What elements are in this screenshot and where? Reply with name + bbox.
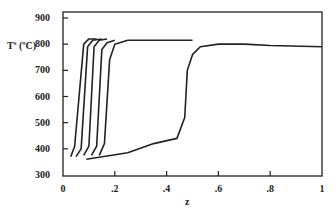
y-axis-label: Ts (ºC) [7,39,36,51]
x-tick-label: .6 [208,183,228,194]
x-tick-label: 1 [312,183,332,194]
series-line [86,44,322,159]
y-tick-label: 700 [20,64,50,75]
series-line [91,40,114,155]
y-tick-label: 900 [20,12,50,23]
y-tick-label: 300 [20,169,50,180]
series-line [99,40,192,155]
x-tick-label: 0 [53,183,73,194]
chart-plot [0,0,336,212]
x-tick-label: .2 [105,183,125,194]
y-tick-label: 400 [20,143,50,154]
y-tick-label: 600 [20,91,50,102]
x-tick-label: .4 [157,183,177,194]
x-tick-label: .8 [260,183,280,194]
x-axis-label: z [185,196,189,207]
y-tick-label: 500 [20,117,50,128]
